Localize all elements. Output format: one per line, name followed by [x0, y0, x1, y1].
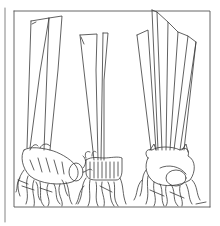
- bulbs-illustration: Three bulbs with trimmed flat leaf blade…: [0, 0, 220, 226]
- left-bulb: [16, 16, 92, 206]
- frame-border: [14, 11, 210, 207]
- middle-bulb: [76, 33, 126, 206]
- right-bulb: [134, 10, 206, 206]
